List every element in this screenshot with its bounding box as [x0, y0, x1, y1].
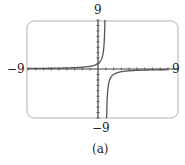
- curve-left-branch: [28, 20, 105, 68]
- x-max-label: 9: [172, 63, 180, 75]
- x-min-label: −9: [7, 63, 25, 75]
- y-max-label: 9: [94, 4, 102, 16]
- caption: (a): [92, 143, 109, 155]
- y-min-label: −9: [92, 122, 110, 134]
- plot-area: [0, 0, 185, 165]
- curve-right-branch: [107, 70, 168, 118]
